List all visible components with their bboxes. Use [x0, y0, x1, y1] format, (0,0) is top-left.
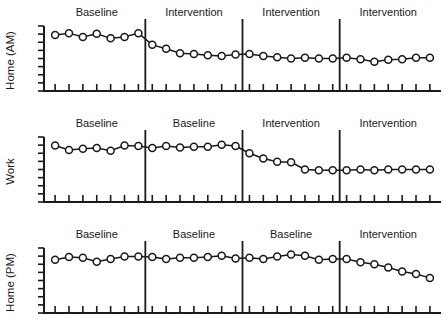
data-point-home-pm-3	[79, 254, 86, 261]
data-point-home-pm-10	[177, 254, 184, 261]
data-point-home-am-17	[274, 54, 281, 61]
data-point-work-19	[301, 166, 308, 173]
data-point-work-20	[315, 167, 322, 174]
data-point-home-am-3	[79, 34, 86, 41]
data-point-home-am-16	[260, 52, 267, 59]
data-point-home-am-24	[371, 58, 378, 65]
data-point-home-pm-1	[52, 256, 59, 263]
data-point-work-5	[107, 147, 114, 154]
phase-label-home-am-2: Intervention	[262, 6, 319, 18]
data-point-home-am-14	[232, 51, 239, 58]
data-point-home-am-28	[426, 54, 433, 61]
data-point-home-am-10	[177, 50, 184, 57]
data-point-work-14	[232, 143, 239, 150]
data-point-home-pm-22	[343, 256, 350, 263]
phase-label-home-pm-1: Baseline	[173, 228, 215, 240]
data-point-work-12	[204, 143, 211, 150]
data-point-home-am-13	[218, 52, 225, 59]
data-point-work-21	[329, 167, 336, 174]
data-point-work-2	[65, 147, 72, 154]
data-point-work-11	[190, 143, 197, 150]
data-point-work-15	[246, 150, 253, 157]
data-point-home-am-9	[163, 45, 170, 52]
y-axis-label-home-am: Home (AM)	[4, 31, 16, 90]
data-point-home-am-25	[385, 56, 392, 63]
phase-label-home-am-0: Baseline	[76, 6, 118, 18]
data-point-home-pm-7	[135, 253, 142, 260]
data-point-work-6	[121, 142, 128, 149]
data-point-home-am-19	[301, 54, 308, 61]
data-point-home-pm-24	[371, 261, 378, 268]
data-point-work-27	[413, 166, 420, 173]
data-point-work-7	[135, 143, 142, 150]
data-point-home-pm-21	[329, 256, 336, 263]
data-point-work-23	[357, 166, 364, 173]
panel-home-am: Home (AM)BaselineInterventionInterventio…	[0, 0, 446, 111]
panel-work: WorkBaselineBaselineInterventionInterven…	[0, 111, 446, 222]
data-point-home-am-18	[288, 55, 295, 62]
data-point-home-pm-12	[204, 254, 211, 261]
phase-label-work-2: Intervention	[262, 117, 319, 129]
data-point-work-3	[79, 145, 86, 152]
data-point-work-17	[274, 158, 281, 165]
data-point-work-10	[177, 144, 184, 151]
y-axis-label-home-pm: Home (PM)	[4, 253, 16, 312]
data-point-work-1	[52, 142, 59, 149]
data-point-home-am-6	[121, 34, 128, 41]
data-point-home-pm-15	[246, 254, 253, 261]
data-point-home-pm-14	[232, 255, 239, 262]
data-point-home-pm-8	[149, 254, 156, 261]
data-point-home-am-23	[357, 56, 364, 63]
phase-label-home-pm-0: Baseline	[76, 228, 118, 240]
data-point-home-pm-4	[93, 258, 100, 265]
data-point-work-25	[385, 166, 392, 173]
multiple-baseline-chart: Home (AM)BaselineInterventionInterventio…	[0, 0, 446, 333]
data-point-home-am-5	[107, 35, 114, 42]
data-point-home-pm-27	[413, 271, 420, 278]
data-point-home-pm-18	[288, 251, 295, 258]
data-point-home-am-8	[149, 41, 156, 48]
data-point-home-pm-26	[399, 268, 406, 275]
data-point-home-pm-13	[218, 252, 225, 259]
data-point-work-9	[163, 143, 170, 150]
phase-label-home-am-1: Intervention	[165, 6, 222, 18]
data-point-home-am-4	[93, 30, 100, 37]
phase-label-work-0: Baseline	[76, 117, 118, 129]
y-axis-label-work: Work	[4, 158, 16, 185]
phase-label-work-3: Intervention	[360, 117, 417, 129]
data-point-work-4	[93, 145, 100, 152]
phase-label-work-1: Baseline	[173, 117, 215, 129]
data-point-home-am-21	[329, 55, 336, 62]
data-point-home-am-15	[246, 50, 253, 57]
data-point-home-am-22	[343, 54, 350, 61]
data-point-home-pm-17	[274, 253, 281, 260]
data-point-home-pm-11	[190, 254, 197, 261]
data-point-work-26	[399, 166, 406, 173]
phase-label-home-am-3: Intervention	[360, 6, 417, 18]
data-point-home-pm-25	[385, 264, 392, 271]
data-point-home-am-12	[204, 52, 211, 59]
data-point-home-pm-23	[357, 259, 364, 266]
data-point-work-22	[343, 167, 350, 174]
data-point-home-am-27	[413, 54, 420, 61]
data-point-home-pm-28	[426, 274, 433, 281]
data-point-home-am-11	[190, 50, 197, 57]
data-point-home-pm-16	[260, 256, 267, 263]
phase-label-home-pm-2: Baseline	[270, 228, 312, 240]
data-point-home-pm-20	[315, 256, 322, 263]
data-point-home-pm-6	[121, 253, 128, 260]
data-point-work-24	[371, 167, 378, 174]
data-point-work-18	[288, 159, 295, 166]
data-point-work-28	[426, 166, 433, 173]
data-point-work-8	[149, 145, 156, 152]
data-point-home-pm-9	[163, 256, 170, 263]
data-point-home-pm-2	[65, 254, 72, 261]
data-point-home-am-7	[135, 30, 142, 37]
data-point-home-pm-5	[107, 256, 114, 263]
data-point-home-am-20	[315, 55, 322, 62]
data-point-home-am-2	[65, 30, 72, 37]
data-point-home-am-1	[52, 32, 59, 39]
data-point-work-16	[260, 155, 267, 162]
data-point-home-pm-19	[301, 252, 308, 259]
phase-label-home-pm-3: Intervention	[360, 228, 417, 240]
